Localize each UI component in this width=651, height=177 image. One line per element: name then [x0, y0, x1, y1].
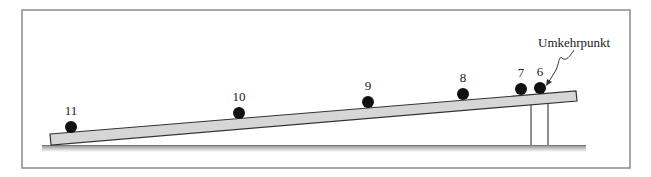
- arrowhead-icon: [546, 79, 552, 86]
- ball-11: [65, 121, 77, 133]
- ball-8: [457, 88, 469, 100]
- ball-10: [233, 107, 245, 119]
- ball-label-8: 8: [460, 70, 467, 85]
- ball-label-11: 11: [65, 103, 78, 118]
- turning-point-arrow: [548, 50, 574, 83]
- inclined-ramp: [50, 91, 577, 145]
- ball-label-6: 6: [537, 64, 544, 79]
- ball-label-10: 10: [233, 89, 246, 104]
- ball-7: [515, 83, 527, 95]
- ball-label-9: 9: [365, 78, 372, 93]
- ball-label-7: 7: [518, 65, 525, 80]
- ball-9: [362, 96, 374, 108]
- turning-point-label: Umkehrpunkt: [538, 35, 611, 50]
- ball-6: [534, 82, 546, 94]
- rolling-ball-ramp-diagram: 11109876 Umkehrpunkt: [0, 0, 651, 177]
